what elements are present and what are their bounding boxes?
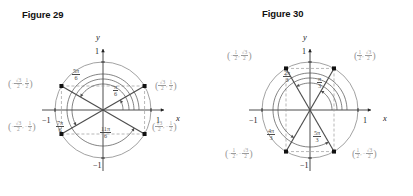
y-axis-negative-one-tick: −1 <box>93 162 102 170</box>
angle-label-11pi-over-6: 11π6 <box>100 126 111 139</box>
angle-label-pi-over-6: π6 <box>113 84 118 97</box>
angle-label-7pi-over-6: 7π6 <box>56 120 64 133</box>
x-axis-negative-one-tick: −1 <box>42 117 51 125</box>
plot-point <box>59 84 63 88</box>
angle-label-5pi-over-3: 5π3 <box>313 130 321 143</box>
y-axis-negative-one-tick: −1 <box>300 162 309 170</box>
coordinate-label-point-q1: (√32, 12) <box>155 80 177 92</box>
angle-label-2pi-over-3: 2π3 <box>283 70 291 83</box>
plot-point <box>143 132 147 136</box>
coordinate-label-point-q1: (12, √32) <box>354 50 376 62</box>
y-axis-name: y <box>96 33 100 42</box>
coordinate-label-point-q3: (−12, −√32) <box>225 148 253 160</box>
figure-29: Figure 29 −111−1xyπ65π67π611π6(√32, 12)(… <box>0 0 206 196</box>
plot-point <box>284 150 288 154</box>
coordinate-label-point-q3: (−√32, −12) <box>8 121 36 133</box>
y-axis-positive-one-tick: 1 <box>302 48 306 56</box>
plot-point <box>332 66 336 70</box>
coordinate-label-point-q2: (−√32, 12) <box>8 78 33 90</box>
angle-label-pi-over-3: π3 <box>317 76 322 89</box>
figure-30: Figure 30 −111−1xyπ32π34π35π3(12, √32)(−… <box>207 0 413 196</box>
x-axis-negative-one-tick: −1 <box>249 117 258 125</box>
x-axis-positive-one-tick: 1 <box>363 117 367 125</box>
coordinate-label-point-q4: (√32, −12) <box>152 121 177 133</box>
y-axis-name: y <box>303 33 307 42</box>
plot-point <box>332 150 336 154</box>
coordinate-label-point-q2: (−12, √32) <box>227 50 252 62</box>
plot-point <box>143 84 147 88</box>
figure-sheet: Figure 29 −111−1xyπ65π67π611π6(√32, 12)(… <box>0 0 413 196</box>
angle-label-5pi-over-6: 5π6 <box>72 68 80 81</box>
figure-30-canvas <box>207 0 413 196</box>
angle-label-4pi-over-3: 4π3 <box>267 128 275 141</box>
coordinate-label-point-q4: (12, −√32) <box>352 148 377 160</box>
y-axis-positive-one-tick: 1 <box>95 48 99 56</box>
figure-29-canvas <box>0 0 206 196</box>
x-axis-name: x <box>383 114 387 123</box>
